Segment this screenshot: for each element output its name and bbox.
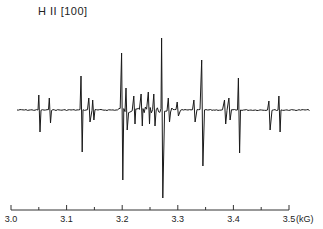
x-tick-label: 3.4 — [227, 214, 240, 224]
x-tick-label: 3.0 — [5, 214, 18, 224]
x-tick-label: 3.5 — [283, 214, 296, 224]
x-tick-label: 3.2 — [116, 214, 129, 224]
spectrum-trace — [17, 38, 310, 198]
x-axis-unit: (kG) — [296, 214, 314, 224]
x-tick-label: 3.3 — [172, 214, 185, 224]
x-tick-label: 3.1 — [60, 214, 73, 224]
x-axis — [11, 205, 289, 210]
spectrum-plot — [0, 0, 323, 229]
spectrum-line — [17, 38, 310, 198]
